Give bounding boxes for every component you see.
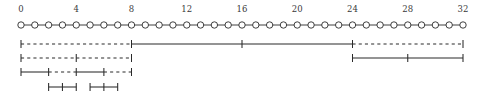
- interval-row: [21, 68, 132, 76]
- axis-marker-circle: [363, 22, 369, 28]
- axis-marker-circle: [418, 22, 424, 28]
- axis-marker-circle: [294, 22, 300, 28]
- axis-marker-circle: [308, 22, 314, 28]
- axis-marker-circle: [335, 22, 341, 28]
- axis-marker-circle: [87, 22, 93, 28]
- axis-marker-circle: [156, 22, 162, 28]
- axis-marker-circle: [142, 22, 148, 28]
- axis-marker-circle: [45, 22, 51, 28]
- axis-marker-circle: [211, 22, 217, 28]
- axis-tick-label: 16: [237, 4, 248, 14]
- interval-row: [49, 83, 118, 91]
- axis-marker-circle: [197, 22, 203, 28]
- interval-diagram-figure: 048121620242832: [0, 0, 484, 99]
- axis-marker-circle: [460, 22, 466, 28]
- axis-marker-circle: [432, 22, 438, 28]
- interval-row: [21, 54, 463, 62]
- axis-marker-circle: [170, 22, 176, 28]
- axis-marker-circle: [128, 22, 134, 28]
- interval-row: [21, 40, 463, 48]
- axis-marker-circle: [405, 22, 411, 28]
- axis-tick-label: 0: [18, 4, 23, 14]
- axis-tick-label: 32: [458, 4, 469, 14]
- axis-marker-circle: [253, 22, 259, 28]
- axis-marker-circle: [59, 22, 65, 28]
- axis-marker-circle: [73, 22, 79, 28]
- axis-marker-circle: [239, 22, 245, 28]
- axis-marker-circle: [391, 22, 397, 28]
- axis-marker-circle: [114, 22, 120, 28]
- interval-diagram-canvas: 048121620242832: [0, 0, 484, 99]
- axis-marker-circle: [101, 22, 107, 28]
- axis-marker-circle: [266, 22, 272, 28]
- axis-marker-circle: [18, 22, 24, 28]
- axis-tick-label: 28: [402, 4, 413, 14]
- axis-marker-circle: [446, 22, 452, 28]
- axis-tick-label: 4: [74, 4, 79, 14]
- axis-tick-label: 24: [347, 4, 358, 14]
- axis-tick-label: 12: [181, 4, 192, 14]
- axis-marker-circle: [377, 22, 383, 28]
- axis-tick-label: 8: [129, 4, 134, 14]
- axis-group: [18, 22, 466, 28]
- axis-marker-circle: [280, 22, 286, 28]
- axis-tick-label: 20: [292, 4, 303, 14]
- axis-marker-circle: [32, 22, 38, 28]
- axis-marker-circle: [184, 22, 190, 28]
- axis-marker-circle: [322, 22, 328, 28]
- axis-marker-circle: [225, 22, 231, 28]
- axis-marker-circle: [349, 22, 355, 28]
- axis-tick-labels: 048121620242832: [18, 4, 468, 14]
